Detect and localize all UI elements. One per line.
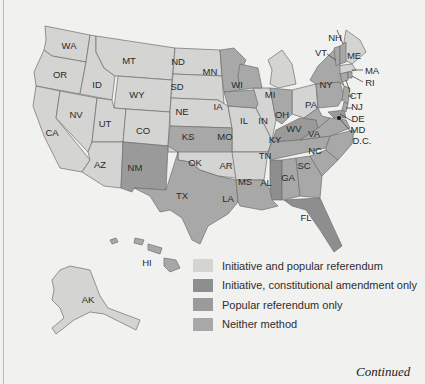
label-wv: WV <box>286 123 302 134</box>
label-id: ID <box>92 79 102 90</box>
label-ny: NY <box>319 79 333 90</box>
state-md[interactable] <box>328 110 346 118</box>
label-az: AZ <box>94 159 106 170</box>
label-ga: GA <box>281 172 295 183</box>
label-co: CO <box>136 125 150 136</box>
label-ms: MS <box>238 176 252 187</box>
legend-swatch-medium <box>193 298 213 311</box>
label-nc: NC <box>308 145 322 156</box>
legend-item-initiative-constitutional-only: Initiative, constitutional amendment onl… <box>193 276 417 296</box>
state-hi-3[interactable] <box>148 244 162 254</box>
label-pa: PA <box>305 99 318 110</box>
label-ky: KY <box>269 134 282 145</box>
label-nh: NH <box>328 32 342 43</box>
legend-swatch-light <box>193 259 213 272</box>
label-fl: FL <box>300 212 311 223</box>
label-ia: IA <box>214 101 224 112</box>
legend-item-neither-method: Neither method <box>193 315 417 335</box>
state-ak[interactable] <box>52 266 140 334</box>
label-la: LA <box>222 193 234 204</box>
label-mt: MT <box>122 55 136 66</box>
label-va: VA <box>308 128 321 139</box>
state-nh[interactable] <box>340 42 346 64</box>
legend-item-initiative-and-referendum: Initiative and popular referendum <box>193 256 417 276</box>
state-hi-1[interactable] <box>110 238 118 244</box>
label-ks: KS <box>182 131 195 142</box>
label-vt: VT <box>315 47 327 58</box>
map-legend: Initiative and popular referendum Initia… <box>193 256 417 334</box>
label-md: MD <box>351 124 366 135</box>
state-ia[interactable] <box>224 90 258 108</box>
label-nd: ND <box>171 56 185 67</box>
label-dc: D.C. <box>353 135 372 146</box>
legend-label: Initiative and popular referendum <box>222 260 383 272</box>
label-mn: MN <box>203 66 218 77</box>
label-mo: MO <box>217 131 232 142</box>
continued-note: Continued <box>356 364 410 380</box>
label-mi: MI <box>265 89 276 100</box>
state-hi-2[interactable] <box>134 238 144 245</box>
state-fl[interactable] <box>284 198 342 252</box>
label-ok: OK <box>188 157 202 168</box>
state-de[interactable] <box>342 102 348 112</box>
state-mi[interactable] <box>268 50 296 88</box>
label-nj: NJ <box>351 101 363 112</box>
label-ar: AR <box>219 160 232 171</box>
label-ri: RI <box>365 77 375 88</box>
label-in: IN <box>258 115 268 126</box>
label-or: OR <box>53 69 67 80</box>
legend-item-popular-referendum-only: Popular referendum only <box>193 295 417 315</box>
label-nm: NM <box>128 162 143 173</box>
label-de: DE <box>351 113 364 124</box>
label-tx: TX <box>176 190 189 201</box>
state-ri[interactable] <box>348 72 352 78</box>
label-il: IL <box>240 115 248 126</box>
label-ct: CT <box>350 90 363 101</box>
label-ut: UT <box>99 118 112 129</box>
label-ak: AK <box>82 294 95 305</box>
legend-label: Initiative, constitutional amendment onl… <box>222 279 417 291</box>
legend-label: Popular referendum only <box>222 299 342 311</box>
label-nv: NV <box>69 109 83 120</box>
label-al: AL <box>260 177 272 188</box>
label-ca: CA <box>45 127 59 138</box>
label-me: ME <box>347 50 361 61</box>
label-sd: SD <box>170 81 183 92</box>
label-wy: WY <box>129 89 145 100</box>
label-hi: HI <box>142 257 152 268</box>
label-tn: TN <box>259 150 272 161</box>
label-ne: NE <box>175 106 188 117</box>
label-oh: OH <box>275 109 289 120</box>
label-wi: WI <box>231 79 243 90</box>
label-wa: WA <box>62 40 78 51</box>
leader-ri <box>352 76 363 82</box>
label-ma: MA <box>365 65 380 76</box>
legend-swatch-neither <box>193 318 213 331</box>
legend-swatch-dark <box>193 279 213 292</box>
state-hi-4[interactable] <box>164 258 180 272</box>
label-sc: SC <box>297 160 310 171</box>
legend-label: Neither method <box>222 318 297 330</box>
